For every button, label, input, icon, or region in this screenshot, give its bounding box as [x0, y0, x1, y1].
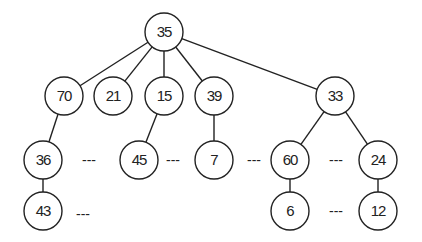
node-6: 6 [271, 192, 309, 230]
node-label: 39 [207, 87, 222, 104]
edge-15-45 [146, 114, 157, 143]
node-label: 12 [371, 202, 386, 219]
sibling-ellipsis: --- [76, 206, 90, 222]
node-label: 7 [210, 151, 218, 168]
tree-nodes: 35702115393336457602443612 [24, 13, 397, 230]
edge-35-39 [176, 47, 203, 81]
node-43: 43 [24, 192, 62, 230]
node-label: 21 [106, 87, 121, 104]
sibling-ellipsis: --- [329, 203, 343, 219]
node-label: 43 [36, 202, 51, 219]
node-21: 21 [94, 77, 132, 115]
node-label: 60 [283, 151, 298, 168]
node-24: 24 [359, 141, 397, 179]
node-label: 35 [157, 23, 172, 40]
node-label: 6 [286, 202, 294, 219]
sibling-ellipsis: --- [166, 152, 180, 168]
node-36: 36 [24, 141, 62, 179]
node-label: 70 [57, 87, 72, 104]
edge-35-21 [125, 47, 152, 81]
node-60: 60 [271, 141, 309, 179]
sibling-ellipsis: --- [329, 152, 343, 168]
node-33: 33 [316, 77, 354, 115]
node-7: 7 [195, 141, 233, 179]
sibling-ellipsis: --- [247, 152, 261, 168]
tree-diagram: 35702115393336457602443612 -------------… [0, 0, 422, 242]
node-70: 70 [45, 77, 83, 115]
sibling-ellipsis: --- [82, 152, 96, 168]
node-15: 15 [145, 77, 183, 115]
node-12: 12 [359, 192, 397, 230]
node-45: 45 [120, 141, 158, 179]
edge-33-24 [346, 112, 368, 144]
node-39: 39 [195, 77, 233, 115]
node-label: 33 [328, 87, 343, 104]
edge-70-36 [49, 114, 58, 142]
node-label: 15 [157, 87, 172, 104]
edge-33-60 [301, 112, 324, 145]
node-label: 24 [371, 151, 386, 168]
node-35: 35 [145, 13, 183, 51]
node-label: 36 [36, 151, 51, 168]
node-label: 45 [132, 151, 147, 168]
